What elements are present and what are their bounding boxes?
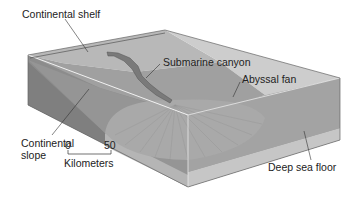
label-continental-shelf: Continental shelf	[22, 9, 100, 20]
label-deep-sea-floor: Deep sea floor	[268, 162, 336, 173]
scale-unit: Kilometers	[64, 158, 114, 169]
label-continental-slope-line2: slope	[21, 150, 46, 161]
scale-min: 0	[65, 139, 71, 151]
label-abyssal-fan: Abyssal fan	[242, 74, 296, 85]
label-submarine-canyon: Submarine canyon	[163, 57, 251, 68]
scale-max: 50	[104, 139, 116, 151]
